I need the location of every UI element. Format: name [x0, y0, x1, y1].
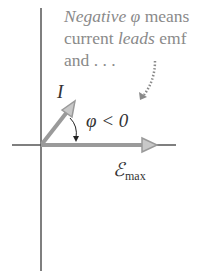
angle-arc	[70, 118, 79, 142]
caption-current: current	[64, 28, 118, 48]
current-phasor	[42, 101, 75, 144]
caption-and: and . . .	[64, 50, 116, 70]
caption-negative: Negative	[64, 6, 126, 26]
current-label: I	[57, 81, 63, 103]
caption-means: means	[140, 6, 189, 26]
dotted-pointer-arrow	[139, 61, 155, 100]
emf-phasor	[41, 138, 157, 152]
emf-label: ℰmax	[113, 158, 146, 184]
angle-label: φ < 0	[86, 110, 128, 132]
caption-line-2: current leads emf	[64, 28, 186, 48]
caption-line-3: and . . .	[64, 50, 116, 70]
caption-leads: leads	[118, 28, 155, 48]
emf-symbol: ℰ	[113, 159, 125, 180]
caption-line-1: Negative φ means	[64, 6, 189, 26]
caption-emf: emf	[155, 28, 187, 48]
emf-subscript: max	[125, 169, 146, 183]
caption-phi: φ	[131, 6, 141, 26]
